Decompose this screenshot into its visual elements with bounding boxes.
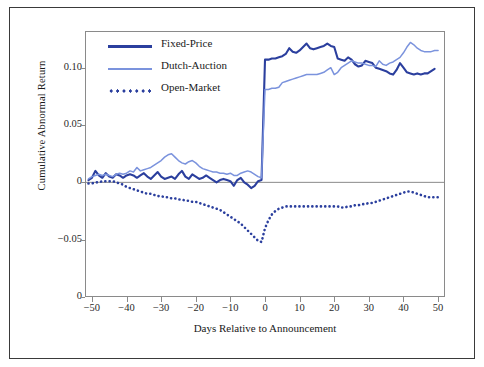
y-tick-label: 0.10 bbox=[26, 61, 82, 75]
x-tickmark bbox=[127, 297, 128, 302]
y-tick-label: 0 bbox=[26, 175, 82, 189]
x-axis-title: Days Relative to Announcement bbox=[85, 322, 445, 334]
y-tick-label: 0.05 bbox=[26, 118, 82, 132]
legend-item-fixed-price: Fixed-Price bbox=[108, 36, 308, 58]
y-tickmark bbox=[80, 68, 85, 69]
x-tickmark bbox=[300, 297, 301, 302]
chart-legend: Fixed-Price Dutch-Auction Open-Market bbox=[108, 36, 308, 102]
x-tickmark bbox=[92, 297, 93, 302]
y-tickmark bbox=[80, 297, 85, 298]
y-tickmark bbox=[80, 182, 85, 183]
y-axis-title: Cumulative Abnormal Return bbox=[36, 11, 47, 241]
x-tickmark bbox=[369, 297, 370, 302]
y-tick-label: −0.05 bbox=[26, 233, 82, 247]
x-tickmark bbox=[161, 297, 162, 302]
x-tickmark bbox=[196, 297, 197, 302]
legend-item-open-market: Open-Market bbox=[108, 80, 308, 102]
x-tickmark bbox=[230, 297, 231, 302]
legend-swatch-solid-thick-icon bbox=[108, 45, 152, 48]
y-tick-text: 0 bbox=[30, 290, 82, 301]
y-tickmark bbox=[80, 240, 85, 241]
x-tickmark bbox=[334, 297, 335, 302]
legend-label-open-market: Open-Market bbox=[161, 81, 220, 93]
legend-label-dutch-auction: Dutch-Auction bbox=[161, 59, 227, 71]
x-tickmark bbox=[438, 297, 439, 302]
x-tickmark bbox=[265, 297, 266, 302]
legend-swatch-solid-thin-icon bbox=[108, 68, 152, 70]
figure-container: 0.100.050−0.050 −50−40−30−20−10010203040… bbox=[0, 0, 484, 367]
legend-label-fixed-price: Fixed-Price bbox=[161, 37, 212, 49]
y-tickmark bbox=[80, 125, 85, 126]
x-tickmark bbox=[403, 297, 404, 302]
legend-item-dutch-auction: Dutch-Auction bbox=[108, 58, 308, 80]
series-line-open-market bbox=[88, 181, 438, 242]
legend-swatch-dotted-icon bbox=[108, 89, 152, 93]
x-tick-label: 50 bbox=[418, 302, 458, 313]
